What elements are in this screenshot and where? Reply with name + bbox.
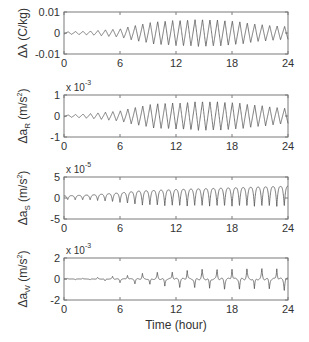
x-tick-label: 18 xyxy=(226,222,238,234)
axes-box xyxy=(64,177,288,219)
x-tick-label: 12 xyxy=(170,57,182,69)
y-axis-label: ΔaR (m/s2) xyxy=(16,88,32,143)
figure: 06121824-0.0100.01Δλ (C/kg)06121824-101x… xyxy=(0,0,309,342)
x-tick-label: 6 xyxy=(117,222,123,234)
data-line xyxy=(64,102,288,131)
x-tick-label: 0 xyxy=(61,140,67,152)
y-tick-label: 0 xyxy=(54,27,60,39)
x-tick-label: 18 xyxy=(226,57,238,69)
x-tick-label: 6 xyxy=(117,303,123,315)
x-tick-label: 0 xyxy=(61,222,67,234)
x-tick-label: 0 xyxy=(61,303,67,315)
x-tick-label: 24 xyxy=(282,222,294,234)
axes-box xyxy=(64,258,288,300)
y-scale-exponent: x 10-3 xyxy=(66,79,91,93)
x-tick-label: 18 xyxy=(226,140,238,152)
y-tick-label: 1 xyxy=(54,89,60,101)
x-tick-label: 12 xyxy=(170,140,182,152)
x-tick-label: 12 xyxy=(170,222,182,234)
data-line xyxy=(64,269,288,291)
subplot-4: 06121824-202x 10-3ΔaW (m/s2)Time (hour) xyxy=(16,242,294,332)
y-tick-label: 5 xyxy=(54,171,60,183)
y-tick-label: 0.01 xyxy=(39,6,60,18)
x-tick-label: 12 xyxy=(170,303,182,315)
x-tick-label: 18 xyxy=(226,303,238,315)
data-line xyxy=(64,20,288,47)
x-tick-label: 6 xyxy=(117,140,123,152)
y-scale-exponent: x 10-5 xyxy=(66,161,91,175)
x-tick-label: 6 xyxy=(117,57,123,69)
data-line xyxy=(64,186,288,206)
y-tick-label: -1 xyxy=(50,131,60,143)
y-axis-label: ΔaW (m/s2) xyxy=(16,251,32,308)
y-tick-label: 0 xyxy=(54,110,60,122)
subplot-1: 06121824-0.0100.01Δλ (C/kg) xyxy=(16,6,294,69)
y-axis-label: Δλ (C/kg) xyxy=(16,8,30,58)
y-tick-label: 0 xyxy=(54,192,60,204)
y-tick-label: -5 xyxy=(50,213,60,225)
y-tick-label: 0 xyxy=(54,273,60,285)
axes-box xyxy=(64,95,288,137)
y-axis-label: ΔaS (m/s2) xyxy=(16,171,32,226)
subplot-3: 06121824-505x 10-5ΔaS (m/s2) xyxy=(16,161,294,234)
x-axis-label: Time (hour) xyxy=(145,318,207,332)
y-scale-exponent: x 10-3 xyxy=(66,242,91,256)
y-tick-label: 2 xyxy=(54,252,60,264)
x-tick-label: 0 xyxy=(61,57,67,69)
y-tick-label: -0.01 xyxy=(35,48,60,60)
subplot-2: 06121824-101x 10-3ΔaR (m/s2) xyxy=(16,79,294,152)
x-tick-label: 24 xyxy=(282,140,294,152)
y-tick-label: -2 xyxy=(50,294,60,306)
x-tick-label: 24 xyxy=(282,303,294,315)
axes-box xyxy=(64,12,288,54)
x-tick-label: 24 xyxy=(282,57,294,69)
